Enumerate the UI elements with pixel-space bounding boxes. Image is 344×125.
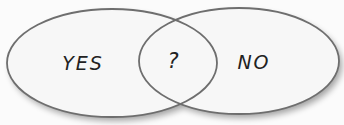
left-set-label: YES — [62, 52, 104, 74]
venn-svg: YES ? NO — [0, 0, 344, 125]
venn-diagram: YES ? NO — [0, 0, 344, 125]
right-set-label: NO — [237, 51, 270, 73]
intersection-label: ? — [167, 49, 178, 73]
